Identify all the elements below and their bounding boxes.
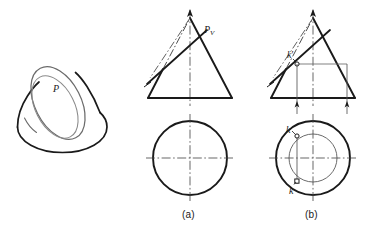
view-b-k-prime-label-mark: ′ [291,49,293,60]
view-b-triangle-right-side [313,18,355,98]
view-a-trace-label-subscript: V [210,29,214,37]
view-b-cutting-plane-trace [270,30,330,84]
view-a-triangle-left-side-dashdot [163,18,190,69]
view-b-group [267,9,357,202]
view-a-cutting-plane-trace [147,30,207,84]
view-b-triangle-left-side-dashdot [286,18,313,69]
pictorial-base-ellipse [18,113,108,153]
caption-b: (b) [305,209,318,220]
drawing-canvas [0,0,370,230]
view-a-apex-auxiliary-dashdot [150,18,190,78]
pictorial-right-silhouette [76,73,101,113]
pictorial-rim-thickness [25,118,37,133]
technical-drawing-figure: P PV k′ k k (a) (b) [0,0,370,230]
view-a-group [144,9,234,202]
cone-pictorial-group [18,58,108,153]
pictorial-cut-ellipse-outer [20,58,96,148]
view-a-triangle-left-side-solid [148,69,163,98]
view-a-trace-label: PV [204,24,214,37]
view-b-apex-auxiliary-dashdot [273,18,313,78]
view-b-k-upper-label: k [286,124,290,135]
pictorial-plane-label: P [53,83,59,94]
pictorial-left-silhouette [18,82,40,127]
view-b-k-lower-label: k [289,185,293,196]
view-b-k-upper-point-marker [295,134,299,138]
caption-a: (a) [182,209,195,220]
view-b-k-prime-label: k′ [287,49,294,60]
view-b-triangle-left-side-solid [271,69,286,98]
view-b-k-upper-leader [292,131,296,135]
